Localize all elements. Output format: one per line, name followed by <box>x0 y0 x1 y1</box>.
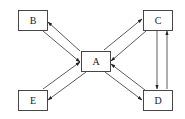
edge-e-to-a <box>43 62 80 89</box>
edge-a-to-c <box>104 19 142 50</box>
node-b: B <box>19 11 48 31</box>
edge-a-to-b <box>48 22 80 51</box>
node-a-label: A <box>92 56 100 67</box>
node-e-label: E <box>30 95 36 106</box>
edge-a-to-e <box>48 72 86 100</box>
edge-d-to-a <box>111 64 145 90</box>
edge-c-to-a <box>111 31 146 61</box>
node-c: C <box>144 11 173 31</box>
edge-a-to-d <box>105 72 142 100</box>
node-d-label: D <box>154 95 161 106</box>
graph-diagram: A B C D E <box>0 0 185 119</box>
node-b-label: B <box>30 15 37 26</box>
node-a: A <box>82 52 111 72</box>
node-d: D <box>144 91 173 111</box>
node-c-label: C <box>155 15 162 26</box>
node-e: E <box>19 91 48 111</box>
